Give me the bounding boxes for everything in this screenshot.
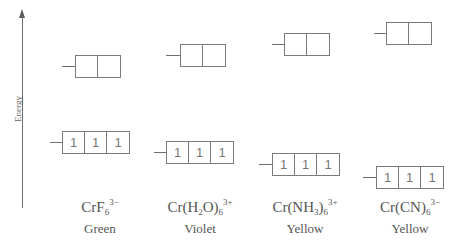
t2g-orbital-set: 111: [376, 166, 444, 189]
t2g-orbital-set: 111: [62, 131, 130, 154]
formula-base: Cr(NH: [272, 199, 314, 215]
formula-sup: 3+: [328, 197, 338, 207]
formula-sup: 3+: [223, 197, 233, 207]
complex-color-label: Yellow: [287, 221, 324, 237]
eg-orbital-box: [203, 45, 225, 66]
complex-color-label: Green: [84, 221, 116, 237]
energy-axis-label: Energy: [11, 92, 25, 126]
electron-spin-up-icon: 1: [421, 167, 443, 188]
complex-formula: Cr(NH3)63+: [272, 197, 337, 217]
eg-orbital-set: [386, 22, 432, 45]
electron-spin-up-icon: 1: [167, 142, 189, 163]
eg-orbital-box: [307, 34, 329, 55]
formula-sub1: 6: [105, 207, 110, 217]
complex-formula: Cr(CN)63−: [380, 197, 440, 217]
formula-sup: 3−: [430, 197, 440, 207]
complex-formula: Cr(H2O)63+: [167, 197, 232, 217]
formula-sub2: 6: [219, 207, 224, 217]
complex-color-label: Violet: [184, 221, 216, 237]
t2g-orbital-set: 111: [166, 141, 234, 164]
eg-level-tick: [374, 33, 386, 34]
electron-spin-up-icon: 1: [189, 142, 211, 163]
eg-level-tick: [166, 55, 180, 56]
t2g-orbital-set: 111: [272, 153, 340, 176]
eg-level-tick: [62, 66, 75, 67]
eg-orbital-set: [284, 33, 330, 56]
formula-base: Cr(CN): [380, 199, 426, 215]
electron-spin-up-icon: 1: [63, 132, 85, 153]
t2g-level-tick: [363, 177, 376, 178]
eg-orbital-set: [75, 55, 121, 78]
electron-spin-up-icon: 1: [211, 142, 233, 163]
formula-sup: 3−: [109, 197, 119, 207]
t2g-level-tick: [154, 152, 166, 153]
electron-spin-up-icon: 1: [273, 154, 295, 175]
formula-sub2: 6: [324, 207, 329, 217]
formula-mid: O): [203, 199, 219, 215]
complex-formula: CrF63−: [81, 197, 118, 217]
eg-orbital-box: [76, 56, 98, 77]
eg-orbital-box: [181, 45, 203, 66]
formula-base: Cr(H: [167, 199, 198, 215]
electron-spin-up-icon: 1: [107, 132, 129, 153]
eg-orbital-box: [98, 56, 120, 77]
eg-orbital-box: [285, 34, 307, 55]
electron-spin-up-icon: 1: [85, 132, 107, 153]
eg-orbital-box: [387, 23, 409, 44]
formula-sub1: 6: [426, 207, 431, 217]
electron-spin-up-icon: 1: [317, 154, 339, 175]
electron-spin-up-icon: 1: [295, 154, 317, 175]
formula-base: CrF: [81, 199, 104, 215]
eg-orbital-set: [180, 44, 226, 67]
electron-spin-up-icon: 1: [399, 167, 421, 188]
crystal-field-splitting-diagram: Energy 111CrF63−Green111Cr(H2O)63+Violet…: [0, 0, 452, 246]
eg-level-tick: [272, 44, 284, 45]
t2g-level-tick: [259, 164, 272, 165]
t2g-level-tick: [50, 142, 62, 143]
electron-spin-up-icon: 1: [377, 167, 399, 188]
eg-orbital-box: [409, 23, 431, 44]
complex-color-label: Yellow: [392, 221, 429, 237]
